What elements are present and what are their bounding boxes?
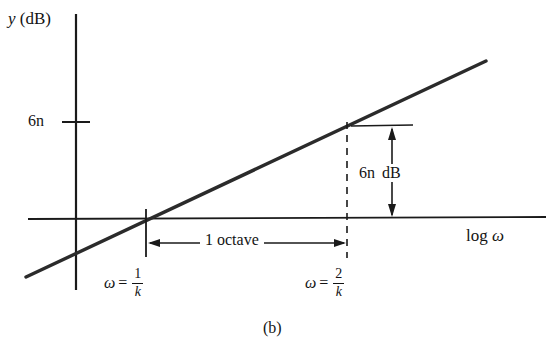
y-axis-label: y (dB): [8, 10, 51, 27]
rise-span-value: 6n: [359, 164, 375, 181]
x-axis-label-text: log: [466, 226, 488, 245]
right-breakpoint-symbol: ω: [305, 274, 316, 291]
plot-canvas: [0, 0, 551, 348]
octave-span-label: 1 octave: [200, 232, 264, 248]
right-breakpoint-denominator: k: [333, 285, 344, 300]
x-axis: [28, 217, 546, 219]
right-breakpoint-fraction: 2 k: [333, 267, 344, 299]
left-breakpoint-equals: =: [118, 274, 127, 291]
figure-caption: (b): [263, 320, 282, 336]
right-breakpoint-numerator: 2: [333, 267, 344, 282]
rise-span-label: 6ndB: [356, 164, 404, 182]
y-tick-label-6n: 6n: [28, 113, 44, 129]
y-axis-label-symbol: y: [8, 9, 16, 28]
bode-asymptote-figure: y (dB) 6n log ω 1 octave 6ndB ω= 1 k ω= …: [0, 0, 551, 348]
left-breakpoint-fraction: 1 k: [132, 267, 143, 299]
x-axis-label: log ω: [466, 227, 504, 244]
left-breakpoint-numerator: 1: [132, 267, 143, 282]
right-breakpoint-label: ω= 2 k: [305, 268, 344, 300]
left-breakpoint-symbol: ω: [104, 274, 115, 291]
left-breakpoint-label: ω= 1 k: [104, 268, 143, 300]
x-axis-label-symbol: ω: [492, 226, 504, 245]
right-breakpoint-equals: =: [319, 274, 328, 291]
y-axis-label-unit: (dB): [20, 9, 51, 28]
rise-top-reference-line: [351, 125, 413, 126]
left-breakpoint-denominator: k: [132, 285, 143, 300]
rise-span-unit: dB: [382, 164, 401, 181]
